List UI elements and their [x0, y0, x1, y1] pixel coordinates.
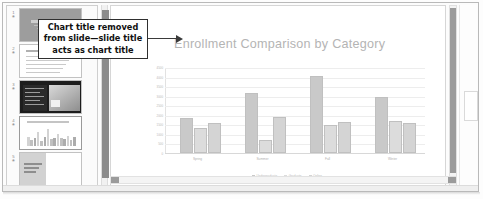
slide-title[interactable]: Enrollment Comparison by Category — [174, 37, 385, 51]
chart-bar[interactable] — [245, 93, 258, 153]
y-axis-tick-label: 4000 — [157, 76, 163, 80]
slide-number-5: 5✷ — [7, 152, 19, 163]
chart-bar[interactable] — [259, 140, 272, 153]
thumb-chart-bar — [73, 137, 76, 146]
chart-bar[interactable] — [310, 76, 323, 153]
status-bar — [3, 185, 478, 191]
slide-thumbnail-image-3[interactable] — [19, 80, 82, 114]
thumb-body-line — [25, 88, 44, 89]
thumb-chart-bar — [34, 138, 37, 146]
slide-number-4: 4✷ — [7, 116, 19, 127]
y-axis-tick-label: 500 — [158, 142, 163, 146]
slide-vertical-scrollbar[interactable] — [449, 5, 457, 188]
x-axis-tick-label: Winter — [388, 157, 397, 161]
chart-bar[interactable] — [375, 97, 388, 153]
thumb-body-line — [25, 100, 40, 101]
thumb-text-panel — [20, 153, 46, 185]
chart-bar[interactable] — [338, 122, 351, 153]
thumb-chart-bar — [60, 138, 63, 146]
y-axis — [165, 68, 166, 154]
annotation-text: Chart title removed from slide—slide tit… — [39, 22, 147, 57]
thumb-chart-bar — [40, 141, 43, 146]
animation-star-icon: ✷ — [8, 123, 19, 127]
x-axis-tick-label: Spring — [193, 157, 202, 161]
thumb-picture — [49, 85, 80, 111]
animation-star-icon: ✷ — [8, 87, 19, 91]
thumb-title-line — [27, 121, 69, 123]
thumb-body-line — [24, 167, 39, 169]
slide-horizontal-scrollbar[interactable] — [110, 176, 457, 184]
y-axis-tick-label: 2500 — [157, 104, 163, 108]
chart-bar[interactable] — [194, 128, 207, 153]
thumb-chart-bar — [63, 139, 66, 146]
animation-star-icon: ✷ — [8, 15, 19, 19]
thumb-chart — [26, 127, 77, 146]
bar-group-spring — [180, 67, 221, 153]
thumb-body-line — [25, 92, 40, 93]
powerpoint-screenshot: 1✷2✷3✷4✷5✷ Enrollment Comparison by Cate… — [0, 0, 483, 199]
thumb-chart-bar — [44, 137, 47, 146]
hscroll-right-thumb[interactable] — [448, 177, 456, 183]
bar-group-fall — [310, 67, 351, 153]
slide-thumbnail-3[interactable]: 3✷ — [7, 80, 98, 114]
slide-number-1: 1✷ — [7, 8, 19, 19]
thumb-chart-bar — [27, 137, 30, 146]
slide-thumbnail-4[interactable]: 4✷ — [7, 116, 98, 150]
chart-bar[interactable] — [180, 118, 193, 153]
chart-bar[interactable] — [389, 121, 402, 153]
slide-thumbnail-5[interactable]: 5✷ — [7, 152, 98, 186]
thumb-chart-bar — [53, 138, 56, 146]
y-axis-tick-label: 4500 — [157, 66, 163, 70]
animation-star-icon: ✷ — [8, 159, 19, 163]
y-axis-tick-label: 3500 — [157, 85, 163, 89]
x-axis — [165, 153, 425, 154]
x-axis-tick-label: Summer — [256, 157, 268, 161]
x-axis-tick-label: Fall — [325, 157, 330, 161]
window-shadow — [3, 192, 480, 195]
thumb-badge — [51, 100, 60, 107]
annotation-arrow — [148, 38, 184, 40]
chart-plot-area: 050010001500200025003000350040004500Spri… — [165, 68, 425, 154]
y-axis-tick-label: 1500 — [157, 123, 163, 127]
y-axis-tick-label: 3000 — [157, 95, 163, 99]
thumb-chart-bar — [30, 140, 33, 146]
bar-chart[interactable]: 050010001500200025003000350040004500Spri… — [141, 64, 433, 176]
thumb-body-line — [25, 96, 44, 97]
thumb-body-line — [24, 171, 36, 173]
thumb-chart-bar — [37, 132, 40, 146]
thumb-chart-bar — [57, 134, 60, 146]
y-axis-tick-label: 0 — [161, 152, 163, 156]
slide-thumbnail-image-4[interactable] — [19, 116, 82, 150]
right-arrow-icon — [176, 35, 183, 43]
chart-bar[interactable] — [403, 123, 416, 153]
arrow-line — [148, 38, 178, 39]
slide-editing-surface[interactable]: Enrollment Comparison by Category 050010… — [110, 5, 446, 188]
right-rail — [459, 5, 477, 188]
slide-number-2: 2✷ — [7, 44, 19, 55]
chart-bar[interactable] — [208, 123, 221, 153]
bar-group-summer — [245, 67, 286, 153]
slide-thumbnail-image-5[interactable] — [19, 152, 82, 186]
slide-vertical-scrollbar-thumb[interactable] — [450, 8, 456, 173]
bar-group-winter — [375, 67, 416, 153]
thumb-chart-bar — [50, 139, 53, 146]
y-axis-tick-label: 1000 — [157, 133, 163, 137]
annotation-callout: Chart title removed from slide—slide tit… — [38, 19, 148, 59]
thumb-body-line — [25, 104, 44, 105]
animation-star-icon: ✷ — [8, 51, 19, 55]
thumb-body-line — [26, 60, 69, 61]
thumb-body-line — [24, 163, 42, 165]
slide-number-3: 3✷ — [7, 80, 19, 91]
thumb-body-line — [26, 72, 60, 73]
thumb-body-line — [26, 68, 63, 69]
chart-bar[interactable] — [273, 117, 286, 153]
right-rail-placeholder — [464, 91, 478, 121]
hscroll-left-thumb[interactable] — [111, 177, 119, 183]
thumb-chart-bar — [47, 129, 50, 146]
thumb-chart-bar — [70, 140, 73, 146]
thumb-chart-bar — [67, 136, 70, 146]
thumb-body-line — [26, 64, 66, 65]
y-axis-tick-label: 2000 — [157, 114, 163, 118]
chart-bar[interactable] — [324, 125, 337, 153]
